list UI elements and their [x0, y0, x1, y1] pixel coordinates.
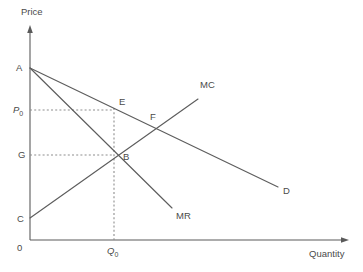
point-label-a: A — [16, 62, 23, 73]
p0-axis-label: P0 — [13, 104, 23, 117]
economics-diagram-canvas: Price Quantity 0 P0 G Q0 A E F B C MC MR… — [0, 0, 363, 272]
point-label-e: E — [119, 96, 125, 107]
q0-axis-label-sub: 0 — [114, 251, 118, 258]
price-quantity-chart: Price Quantity 0 P0 G Q0 A E F B C MC MR… — [0, 0, 363, 272]
curve-label-d: D — [283, 185, 290, 196]
curve-label-mr: MR — [176, 210, 191, 221]
y-axis-arrowhead — [27, 25, 33, 33]
point-label-c: C — [17, 213, 24, 224]
axis-value-labels: P0 G Q0 — [13, 104, 118, 258]
y-axis-title: Price — [21, 6, 43, 17]
g-axis-label: G — [18, 149, 25, 160]
guide-lines-group — [30, 108, 114, 240]
curves-group — [30, 68, 278, 218]
origin-label: 0 — [17, 242, 22, 253]
x-axis-arrowhead — [341, 237, 349, 243]
point-label-f: F — [150, 111, 156, 122]
marginal-revenue-curve — [30, 68, 172, 208]
q0-axis-label: Q0 — [107, 245, 118, 258]
curve-labels-group: MC MR D — [176, 79, 290, 221]
x-axis-title: Quantity — [309, 248, 345, 259]
demand-curve — [30, 68, 278, 187]
p0-axis-label-sub: 0 — [19, 110, 23, 117]
curve-label-mc: MC — [200, 79, 215, 90]
point-label-b: B — [123, 151, 129, 162]
